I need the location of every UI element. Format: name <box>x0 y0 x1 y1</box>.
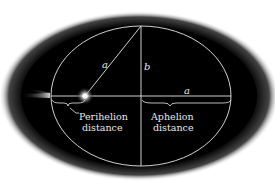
perihelion-label-line1: Perihelion <box>79 111 128 122</box>
orbit-diagram: a b a Perihelion distance Aphelion dista… <box>0 0 275 181</box>
sun-core <box>83 94 88 99</box>
aphelion-label-line1: Aphelion <box>150 111 194 122</box>
aphelion-label-line2: distance <box>153 122 194 133</box>
perihelion-label-line2: distance <box>82 122 123 133</box>
label-b: b <box>144 61 150 72</box>
label-a-diagonal: a <box>102 59 108 70</box>
label-a-axis: a <box>184 85 190 96</box>
